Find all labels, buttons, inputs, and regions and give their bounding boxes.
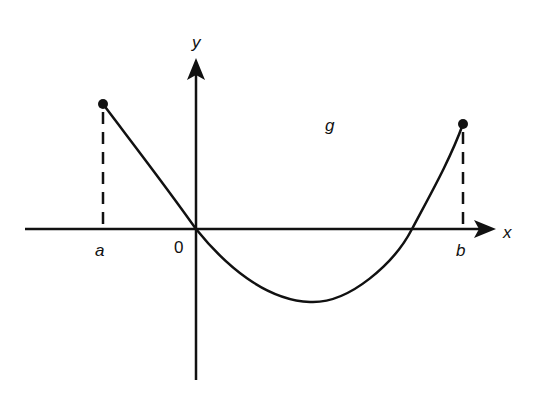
origin-label: 0 [174,238,183,257]
point-b-label: b [456,241,465,260]
function-graph: y x 0 a b g [0,0,533,403]
endpoint-a-dot [98,99,108,109]
point-a-label: a [95,241,104,260]
y-axis-label: y [191,33,202,52]
x-axis [25,220,496,238]
endpoint-b-dot [458,119,468,129]
function-label: g [325,116,335,135]
x-axis-label: x [502,223,512,242]
curve-g [103,104,463,302]
